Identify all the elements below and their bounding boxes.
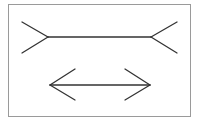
left-fin-line (22, 37, 48, 53)
right-fin-line (151, 37, 177, 53)
left-fin-line (22, 22, 48, 37)
fins-outward-line (22, 22, 177, 53)
illusion-drawing (0, 0, 198, 126)
arrowheads-inward-line (50, 69, 150, 100)
left-fin-line (50, 69, 75, 85)
right-fin-line (125, 85, 150, 100)
right-fin-line (125, 69, 150, 85)
left-fin-line (50, 85, 75, 100)
right-fin-line (151, 22, 177, 37)
